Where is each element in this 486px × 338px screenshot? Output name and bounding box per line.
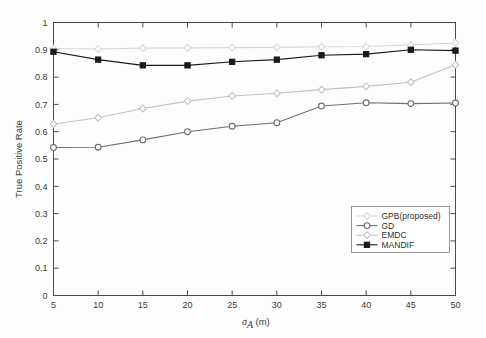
figure-container: 00.10.20.30.40.50.60.70.80.9151015202530… bbox=[0, 0, 486, 338]
data-point bbox=[453, 100, 459, 106]
data-point bbox=[452, 40, 459, 47]
data-point bbox=[229, 93, 236, 100]
legend-label: MANDIF bbox=[382, 240, 415, 250]
y-tick-label: 1 bbox=[42, 18, 47, 28]
x-tick-label: 35 bbox=[316, 300, 326, 310]
data-point bbox=[408, 101, 414, 107]
data-point bbox=[274, 57, 279, 62]
x-axis-title: σA(m) bbox=[242, 316, 270, 330]
data-point bbox=[273, 44, 280, 51]
x-tick-label: 30 bbox=[272, 300, 282, 310]
x-tick-label: 15 bbox=[138, 300, 148, 310]
y-axis-title: True Positive Rate bbox=[13, 120, 24, 198]
data-point bbox=[140, 137, 146, 143]
series-line bbox=[54, 103, 456, 148]
legend-label: GD bbox=[382, 221, 395, 231]
series-mandif bbox=[51, 47, 458, 68]
data-point bbox=[363, 100, 369, 106]
data-point bbox=[184, 98, 191, 105]
series-gpb-proposed- bbox=[50, 40, 459, 53]
x-tick-label: 45 bbox=[406, 300, 416, 310]
x-tick-label: 5 bbox=[51, 300, 56, 310]
y-tick-label: 0.9 bbox=[35, 45, 48, 55]
data-point bbox=[318, 86, 325, 93]
x-tick-label: 50 bbox=[450, 300, 460, 310]
legend-label: GPB(proposed) bbox=[382, 211, 441, 221]
y-tick-label: 0.1 bbox=[35, 263, 48, 273]
data-point bbox=[184, 44, 191, 51]
data-point bbox=[274, 120, 280, 126]
data-point bbox=[407, 79, 414, 86]
x-tick-label: 20 bbox=[182, 300, 192, 310]
data-point bbox=[139, 105, 146, 112]
data-point bbox=[95, 114, 102, 121]
legend-label: EMDC bbox=[382, 230, 407, 240]
y-tick-label: 0.2 bbox=[35, 236, 48, 246]
y-tick-label: 0.6 bbox=[35, 127, 48, 137]
data-point bbox=[408, 47, 413, 52]
data-point bbox=[319, 53, 324, 58]
data-point bbox=[50, 121, 57, 128]
data-point bbox=[363, 43, 370, 50]
data-point bbox=[139, 45, 146, 52]
data-point bbox=[230, 59, 235, 64]
x-tick-label: 25 bbox=[227, 300, 237, 310]
x-tick-label: 10 bbox=[93, 300, 103, 310]
series-line bbox=[54, 43, 456, 49]
plot-frame bbox=[54, 23, 456, 296]
y-tick-label: 0.4 bbox=[35, 182, 48, 192]
data-point bbox=[95, 46, 102, 53]
y-tick-label: 0 bbox=[42, 291, 47, 301]
y-tick-label: 0.7 bbox=[35, 100, 48, 110]
data-point bbox=[185, 63, 190, 68]
data-point bbox=[364, 52, 369, 57]
data-point bbox=[453, 48, 458, 53]
data-point bbox=[95, 144, 101, 150]
series-line bbox=[54, 50, 456, 66]
series-line bbox=[54, 65, 456, 124]
data-point bbox=[319, 103, 325, 109]
data-point bbox=[452, 61, 459, 68]
series-gd bbox=[51, 100, 459, 151]
y-tick-label: 0.5 bbox=[35, 154, 48, 164]
data-point bbox=[51, 49, 56, 54]
legend: GPB(proposed)GDEMDCMANDIF bbox=[352, 207, 450, 253]
data-point bbox=[51, 145, 57, 151]
data-point bbox=[185, 129, 191, 135]
data-point bbox=[140, 63, 145, 68]
data-point bbox=[273, 90, 280, 97]
data-point bbox=[229, 44, 236, 51]
data-point bbox=[318, 43, 325, 50]
x-axis-title-unit: (m) bbox=[256, 316, 270, 327]
data-point bbox=[363, 83, 370, 90]
data-point bbox=[96, 57, 101, 62]
data-point bbox=[229, 123, 235, 129]
y-tick-label: 0.8 bbox=[35, 72, 48, 82]
x-tick-label: 40 bbox=[361, 300, 371, 310]
legend-marker bbox=[364, 223, 370, 229]
y-tick-label: 0.3 bbox=[35, 209, 48, 219]
legend-marker bbox=[364, 242, 369, 247]
line-chart: 00.10.20.30.40.50.60.70.80.9151015202530… bbox=[0, 0, 486, 338]
x-axis-title-subscript: A bbox=[246, 319, 254, 330]
series-emdc bbox=[50, 61, 459, 127]
